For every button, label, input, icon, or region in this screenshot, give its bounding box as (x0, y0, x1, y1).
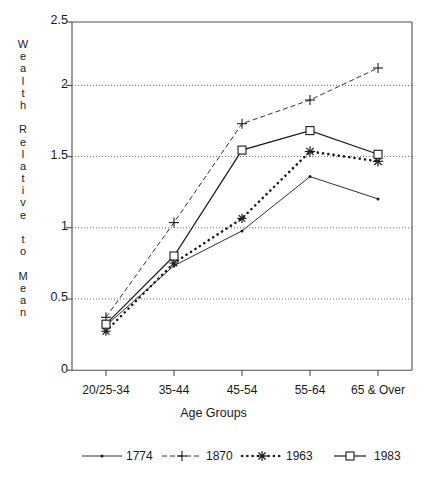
series-1774 (105, 175, 380, 327)
y-axis-ticks (66, 22, 72, 370)
series-1870-line (106, 68, 378, 317)
legend-item-1983[interactable]: 1983 (328, 446, 401, 466)
x-tick-label-1: 35-44 (159, 383, 190, 397)
series-1870 (101, 63, 383, 322)
star-icon (240, 448, 284, 464)
legend-item-1774[interactable]: 1774 (80, 446, 153, 466)
legend-label-1774: 1774 (126, 449, 153, 463)
gridlines (72, 85, 412, 299)
series-1774-marker (309, 175, 312, 178)
series-1774-line (106, 177, 378, 326)
series-1963-line (106, 152, 378, 332)
legend-label-1983: 1983 (374, 449, 401, 463)
legend-item-1963[interactable]: 1963 (240, 446, 313, 466)
x-axis-title: Age Groups (0, 406, 427, 420)
x-tick-label-4: 65 & Over (351, 383, 405, 397)
legend-item-1870[interactable]: 1870 (160, 446, 233, 466)
chart-figure: W e a l t h R e l a t i v e t o M e a n … (0, 0, 427, 478)
series-1963 (101, 146, 383, 336)
plus-icon (160, 448, 204, 464)
axis-frame (72, 22, 412, 370)
series-1774-marker (241, 229, 244, 232)
legend-label-1870: 1870 (206, 449, 233, 463)
x-axis-ticks (106, 370, 378, 376)
x-tick-label-2: 45-54 (227, 383, 258, 397)
x-tick-label-0: 20/25-34 (82, 383, 129, 397)
legend-label-1963: 1963 (286, 449, 313, 463)
dot-icon (80, 448, 124, 464)
series-1774-marker (377, 197, 380, 200)
series-1983-line (106, 131, 378, 325)
x-axis-tick-labels: 20/25-34 35-44 45-54 55-64 65 & Over (0, 381, 427, 401)
series-1870-markers (101, 63, 383, 322)
chart-legend: 1774 1870 1963 (0, 446, 427, 470)
series-1963-markers (101, 146, 383, 336)
square-icon (328, 448, 372, 464)
x-tick-label-3: 55-64 (295, 383, 326, 397)
